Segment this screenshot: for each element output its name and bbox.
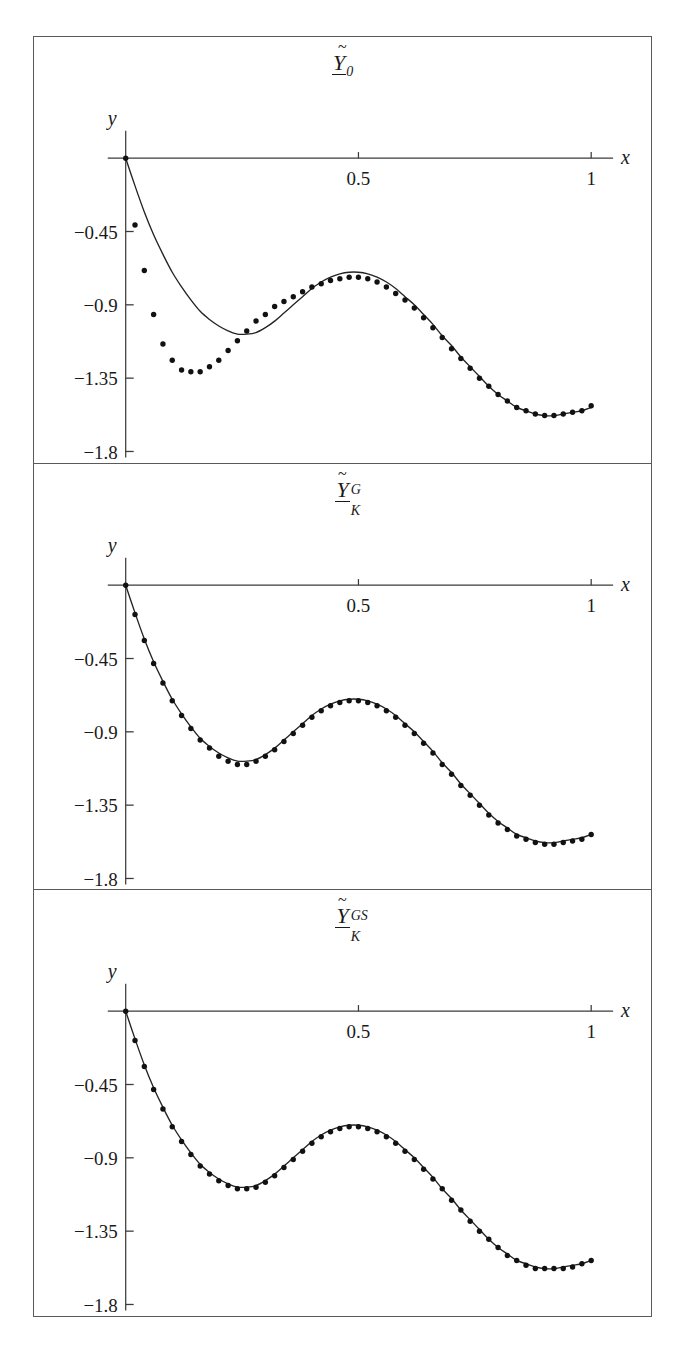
data-point (309, 714, 314, 719)
data-point (542, 413, 547, 418)
reference-curve (126, 1012, 591, 1270)
plot-svg-3: 0.51−0.45−0.9−1.35−1.8xy (34, 890, 651, 1316)
data-point (430, 750, 435, 755)
data-point (384, 1134, 389, 1139)
data-point (207, 364, 212, 369)
data-point (281, 299, 286, 304)
data-point (319, 1134, 324, 1139)
data-point (458, 356, 463, 361)
x-tick-label: 0.5 (347, 594, 371, 615)
data-point (589, 403, 594, 408)
data-point (430, 325, 435, 330)
data-point (449, 346, 454, 351)
y-axis-label: y (106, 106, 117, 129)
data-point (207, 1172, 212, 1177)
data-point (225, 348, 230, 353)
data-point (458, 783, 463, 788)
data-point (514, 833, 519, 838)
data-point (328, 1129, 333, 1134)
data-point (142, 638, 147, 643)
x-tick-label: 0.5 (347, 167, 371, 188)
data-point (477, 1229, 482, 1234)
data-point (216, 1178, 221, 1183)
data-point (291, 730, 296, 735)
data-point (244, 761, 249, 766)
data-point (356, 1124, 361, 1129)
data-point (467, 792, 472, 797)
data-point (449, 771, 454, 776)
plot-svg-2: 0.51−0.45−0.9−1.35−1.8xy (34, 464, 651, 890)
data-point (291, 294, 296, 299)
data-point (337, 699, 342, 704)
data-point (505, 398, 510, 403)
data-point (225, 758, 230, 763)
x-tick-label: 0.5 (347, 1021, 371, 1042)
data-point (561, 411, 566, 416)
data-point (179, 367, 184, 372)
data-point (495, 820, 500, 825)
data-point (263, 753, 268, 758)
data-point (188, 725, 193, 730)
data-point (123, 1009, 128, 1014)
data-point (477, 375, 482, 380)
data-point (356, 274, 361, 279)
data-point (309, 1141, 314, 1146)
y-tick-label: −1.8 (83, 441, 117, 462)
data-point (440, 761, 445, 766)
x-axis-label: x (620, 999, 630, 1021)
data-point (505, 827, 510, 832)
data-point (263, 1180, 268, 1185)
data-point (272, 304, 277, 309)
data-point (402, 722, 407, 727)
data-point (561, 1266, 566, 1271)
reference-curve (126, 585, 591, 843)
data-point (514, 405, 519, 410)
data-point (374, 703, 379, 708)
data-point (225, 1183, 230, 1188)
plot-svg-1: 0.51−0.45−0.9−1.35−1.8xy (34, 37, 651, 463)
data-point (402, 297, 407, 302)
data-point (579, 1261, 584, 1266)
data-point (589, 831, 594, 836)
data-point (393, 1141, 398, 1146)
data-point (244, 328, 249, 333)
data-point (384, 284, 389, 289)
data-point (402, 1149, 407, 1154)
data-point (579, 836, 584, 841)
plot-area-1: 0.51−0.45−0.9−1.35−1.8xy (34, 37, 651, 463)
chart-panel-1: Y~0 0.51−0.45−0.9−1.35−1.8xy (34, 37, 651, 463)
data-point (440, 1186, 445, 1191)
data-point (179, 1139, 184, 1144)
data-point (365, 1126, 370, 1131)
data-point (495, 1245, 500, 1250)
plot-area-2: 0.51−0.45−0.9−1.35−1.8xy (34, 464, 651, 890)
data-point (272, 1173, 277, 1178)
x-tick-label: 1 (586, 594, 595, 615)
data-point (272, 747, 277, 752)
y-tick-label: −1.35 (74, 1221, 118, 1242)
data-point (291, 1157, 296, 1162)
data-point (300, 722, 305, 727)
data-point (430, 1177, 435, 1182)
data-point (570, 410, 575, 415)
data-point (151, 660, 156, 665)
y-axis-label: y (106, 960, 117, 983)
data-point (579, 408, 584, 413)
data-point (216, 753, 221, 758)
data-point (412, 730, 417, 735)
data-point (412, 1157, 417, 1162)
data-point (170, 357, 175, 362)
data-point (300, 289, 305, 294)
data-point (477, 802, 482, 807)
x-axis-label: x (620, 146, 630, 168)
data-point (346, 274, 351, 279)
y-tick-label: −0.9 (83, 1148, 117, 1169)
data-point (561, 840, 566, 845)
x-axis-label: x (620, 573, 630, 595)
data-point (160, 341, 165, 346)
data-point (132, 611, 137, 616)
data-point (319, 708, 324, 713)
x-tick-label: 1 (586, 167, 595, 188)
data-point (467, 366, 472, 371)
data-point (365, 699, 370, 704)
